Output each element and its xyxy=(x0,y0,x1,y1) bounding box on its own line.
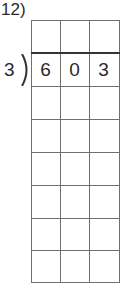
grid-line xyxy=(31,119,120,120)
grid-line xyxy=(31,152,120,153)
grid-line xyxy=(31,282,120,283)
grid-line xyxy=(31,218,120,219)
divisor: 3 xyxy=(4,53,15,86)
problem-number: 12) xyxy=(1,0,26,20)
grid-line xyxy=(31,20,120,21)
dividend-digit: 0 xyxy=(60,53,89,86)
dividend-digit: 6 xyxy=(31,53,60,86)
grid-line xyxy=(31,185,120,186)
grid-line xyxy=(31,86,120,87)
grid-line xyxy=(31,250,120,251)
dividend-digit: 3 xyxy=(89,53,118,86)
